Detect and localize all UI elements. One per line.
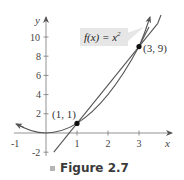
parabola-left-arrow (16, 124, 24, 128)
x-tick-label: 1 (75, 138, 80, 149)
function-label: f(x) = x (84, 31, 117, 44)
caption-text: Figure 2.7 (60, 161, 129, 175)
x-tick-label: 3 (137, 138, 142, 149)
chart-plot: -1 1 2 3 x 10 8 6 4 2 -2 y (0, 0, 184, 160)
point-1-1 (74, 121, 79, 126)
function-label-callout: f(x) = x2 (80, 27, 144, 46)
y-axis-label: y (34, 14, 40, 26)
x-tick-label: 2 (106, 138, 111, 149)
caption-bullet-icon (50, 166, 55, 171)
x-tick-label: -1 (11, 138, 19, 149)
function-label-exponent: 2 (117, 30, 121, 38)
point-1-1-label: (1, 1) (52, 108, 76, 121)
x-axis-label: x (164, 137, 170, 149)
y-tick-label: 2 (36, 108, 41, 119)
y-tick-label: 8 (36, 51, 41, 62)
y-tick-label: 10 (30, 32, 40, 43)
y-tick-label: 4 (36, 89, 41, 100)
y-tick-label: -2 (32, 147, 40, 158)
figure-caption: Figure 2.7 (50, 161, 129, 175)
y-axis: 10 8 6 4 2 -2 y (30, 14, 49, 158)
point-3-9-label: (3, 9) (143, 42, 167, 55)
figure: -1 1 2 3 x 10 8 6 4 2 -2 y (0, 0, 184, 180)
point-3-9 (136, 44, 141, 49)
svg-text:f(x) = x2: f(x) = x2 (84, 30, 121, 44)
y-tick-label: 6 (36, 70, 41, 81)
